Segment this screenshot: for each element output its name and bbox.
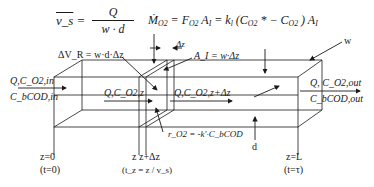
inlet-top-label: Q,C_O2,in — [10, 76, 54, 86]
velocity-fraction: Q w · d — [92, 6, 134, 35]
z-position-label: z z+Δz — [132, 152, 160, 162]
t0-label: (t=0) — [40, 165, 60, 175]
mid-in-label: Q,C_O2,z — [104, 88, 144, 98]
depth-label: d — [252, 142, 257, 152]
mid-out-label: Q,C_O2,z+Δz — [174, 88, 231, 98]
delta-volume-label: ΔV_R = w·d·Δz — [58, 50, 124, 60]
width-label: w — [344, 36, 351, 46]
width-arrow — [310, 42, 342, 60]
tz-label: (t_z = z / v_s) — [122, 166, 172, 175]
tL-label: (t=τ) — [284, 165, 303, 175]
zL-label: z=L — [286, 152, 302, 162]
inlet-bottom-label: C_bCOD,in — [10, 92, 58, 102]
delta-z-label: Δz — [176, 40, 185, 49]
velocity-equation: v_s = — [56, 14, 85, 27]
oxygen-transfer-equation: ṀO2 = FO2 AI = kl (CO2 * − CO2 ) AI — [148, 14, 318, 28]
box-front-face — [54, 77, 298, 127]
outlet-top-label: Q, C_O2,out — [310, 78, 361, 88]
rate-label: r_O2 = -k'·C_bCOD — [168, 130, 243, 139]
outlet-bottom-label: C_bCOD,out — [310, 94, 363, 104]
interface-area-label: A_I = w·Δz — [194, 51, 239, 61]
z0-label: z=0 — [40, 152, 55, 162]
